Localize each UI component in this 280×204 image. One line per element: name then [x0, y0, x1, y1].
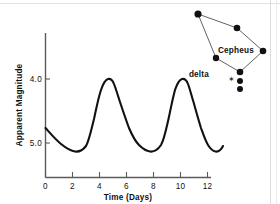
y-tick-label-5-0: 5.0	[30, 139, 42, 148]
star-line-alpha-eta	[198, 14, 216, 58]
x-axis-title: Time (Days)	[104, 193, 153, 202]
x-tick-label-10: 10	[176, 182, 186, 191]
x-axis-tick-labels: 0 2 4 6 8 10 12	[43, 182, 212, 191]
light-curve-path	[46, 79, 224, 152]
star-mu-cephei	[237, 86, 243, 92]
x-tick-label-4: 4	[97, 182, 102, 191]
x-tick-label-12: 12	[203, 182, 213, 191]
delta-cephei-star-marker-icon: ✶	[228, 75, 235, 84]
x-axis-ticks	[46, 172, 208, 178]
star-beta-cephei	[234, 25, 241, 32]
y-axis-title: Apparent Magnitude	[15, 63, 24, 146]
light-curve-figure: 0 2 4 6 8 10 12 4.0 5.0 Time (Days) Appa…	[0, 0, 280, 204]
x-tick-label-8: 8	[151, 182, 156, 191]
star-zeta-cephei	[237, 69, 244, 76]
plot-axes	[46, 33, 212, 178]
x-tick-label-2: 2	[70, 182, 75, 191]
constellation-label-cepheus: Cepheus	[218, 46, 254, 55]
y-tick-label-4-0: 4.0	[30, 75, 42, 84]
x-tick-label-0: 0	[43, 182, 48, 191]
figure-page: 0 2 4 6 8 10 12 4.0 5.0 Time (Days) Appa…	[0, 0, 280, 204]
star-line-eta-zeta	[216, 58, 240, 72]
constellation-label-delta: delta	[189, 70, 209, 79]
constellation-lines	[198, 14, 263, 72]
star-epsilon-cephei	[237, 78, 243, 84]
star-gamma-cephei	[260, 48, 267, 55]
star-alpha-cephei	[194, 10, 201, 17]
cepheus-constellation-inset: Cepheus delta ✶	[189, 10, 266, 92]
star-line-alpha-beta	[198, 14, 237, 28]
y-axis-tick-labels: 4.0 5.0	[30, 75, 42, 148]
star-eta-cephei	[213, 55, 219, 61]
x-tick-label-6: 6	[124, 182, 129, 191]
